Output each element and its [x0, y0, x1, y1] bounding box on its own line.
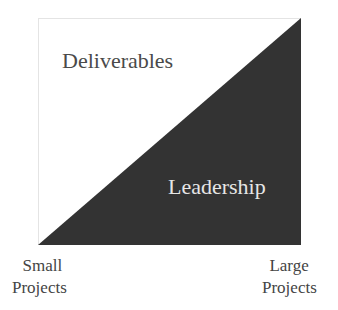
large-label-line2: Projects	[262, 277, 317, 299]
large-label-line1: Large	[262, 255, 317, 277]
small-projects-label: Small Projects	[12, 255, 67, 299]
leadership-label: Leadership	[168, 176, 266, 198]
deliverables-label: Deliverables	[62, 50, 173, 72]
large-projects-label: Large Projects	[262, 255, 317, 299]
small-label-line2: Projects	[12, 277, 67, 299]
small-label-line1: Small	[12, 255, 67, 277]
